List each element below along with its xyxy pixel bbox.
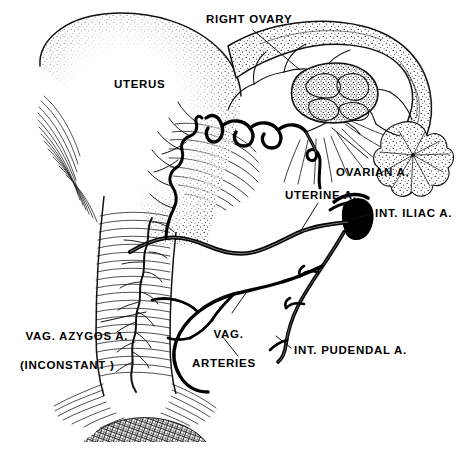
- label-vag-arteries-line1: VAG.: [214, 328, 244, 340]
- label-right-ovary: RIGHT OVARY: [206, 12, 292, 26]
- label-ovarian-artery: OVARIAN A.: [336, 165, 409, 179]
- label-vag-azygos-line1: VAG. AZYGOS A.: [26, 330, 129, 342]
- right-ovary: [292, 63, 379, 123]
- label-vag-arteries-line2: ARTERIES: [192, 356, 256, 371]
- label-uterus: UTERUS: [114, 77, 165, 91]
- label-internal-pudendal-artery: INT. PUDENDAL A.: [294, 343, 407, 357]
- label-vag-azygos-line2: (INCONSTANT ): [10, 358, 128, 373]
- label-internal-iliac-artery: INT. ILIAC A.: [375, 206, 452, 220]
- label-uterine-artery: UTERINE A.: [285, 188, 357, 202]
- anatomical-figure: RIGHT OVARY UTERUS OVARIAN A. UTERINE A.…: [0, 0, 458, 452]
- label-vaginal-arteries: VAG. ARTERIES: [198, 312, 256, 399]
- label-vaginal-azygos-artery: VAG. AZYGOS A. (INCONSTANT ): [10, 314, 128, 401]
